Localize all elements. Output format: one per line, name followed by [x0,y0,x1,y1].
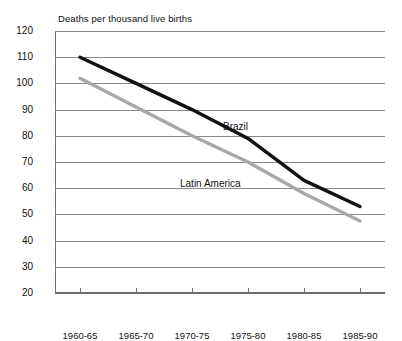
plot-area: 2030405060708090100110120 1960-651965-70… [55,31,385,293]
y-tick-label: 70 [3,157,33,167]
y-tick-label: 90 [3,105,33,115]
y-tick-label: 100 [3,78,33,88]
y-tick-label: 60 [3,183,33,193]
y-tick-label: 110 [3,52,33,62]
y-tick-label: 20 [3,288,33,298]
x-tick-label: 1985-90 [325,330,395,341]
y-tick-label: 120 [3,26,33,36]
series-label-latin-america: Latin America [180,178,241,189]
series-lines [55,31,385,293]
y-tick-label: 50 [3,209,33,219]
y-tick-label: 40 [3,236,33,246]
y-tick-label: 30 [3,262,33,272]
line-latin-america [80,78,360,221]
gridline [55,293,385,294]
chart-title: Deaths per thousand live births [58,13,192,24]
series-label-brazil: Brazil [223,121,248,132]
y-tick-label: 80 [3,131,33,141]
